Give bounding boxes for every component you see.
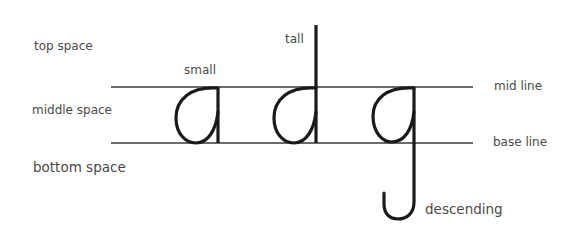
mid-line-label: mid line <box>494 80 542 92</box>
handwriting-diagram: top space middle space bottom space smal… <box>0 0 585 230</box>
base-line-label: base line <box>493 136 547 148</box>
middle-space-label: middle space <box>32 104 112 116</box>
tall-label: tall <box>285 33 304 45</box>
letter-g-glyph <box>373 88 414 219</box>
small-label: small <box>184 64 216 76</box>
top-space-label: top space <box>34 40 93 52</box>
descending-label: descending <box>425 203 503 217</box>
bottom-space-label: bottom space <box>33 161 126 175</box>
letter-a-glyph <box>176 88 218 143</box>
